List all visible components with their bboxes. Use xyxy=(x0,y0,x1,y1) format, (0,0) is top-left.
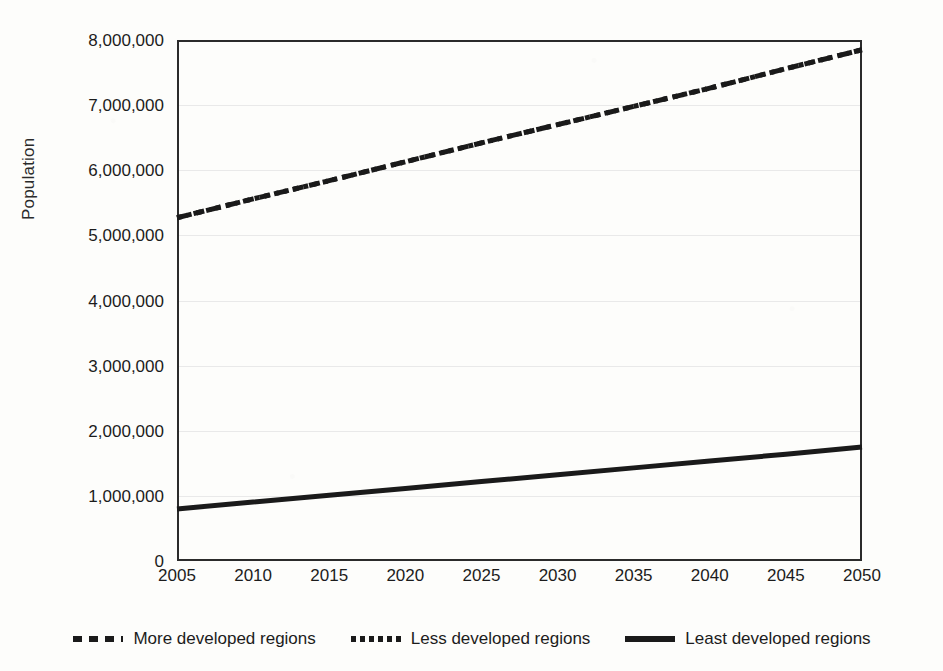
chart-legend: More developed regionsLess developed reg… xyxy=(0,623,943,655)
x-axis-tick-label: 2015 xyxy=(310,566,348,586)
x-axis-tick-label: 2025 xyxy=(463,566,501,586)
legend-item[interactable]: More developed regions xyxy=(72,629,315,649)
population-projection-line-chart: Population 01,000,0002,000,0003,000,0004… xyxy=(0,0,943,671)
y-axis-tick-label: 7,000,000 xyxy=(0,97,172,114)
x-axis-tick-label: 2045 xyxy=(767,566,805,586)
x-axis-tick-label: 2030 xyxy=(539,566,577,586)
plot-area xyxy=(177,40,862,561)
legend-label: Least developed regions xyxy=(685,629,870,649)
legend-label: More developed regions xyxy=(133,629,315,649)
y-axis-tick-label: 4,000,000 xyxy=(0,292,172,309)
legend-swatch-dotted-icon xyxy=(350,633,402,645)
legend-swatch-dashed-icon xyxy=(72,633,124,645)
y-axis-tick-labels: 01,000,0002,000,0003,000,0004,000,0005,0… xyxy=(0,0,172,600)
legend-swatch-solid-icon xyxy=(624,633,676,645)
x-axis-tick-label: 2010 xyxy=(234,566,272,586)
legend-item[interactable]: Less developed regions xyxy=(350,629,591,649)
y-axis-tick-label: 3,000,000 xyxy=(0,357,172,374)
legend-item[interactable]: Least developed regions xyxy=(624,629,870,649)
x-axis-tick-label: 2050 xyxy=(843,566,881,586)
y-axis-tick-label: 1,000,000 xyxy=(0,487,172,504)
x-axis-tick-label: 2005 xyxy=(158,566,196,586)
x-axis-tick-label: 2035 xyxy=(615,566,653,586)
y-axis-tick-label: 5,000,000 xyxy=(0,227,172,244)
series-lines xyxy=(177,40,862,561)
y-axis-tick-label: 6,000,000 xyxy=(0,162,172,179)
y-axis-tick-label: 2,000,000 xyxy=(0,422,172,439)
legend-label: Less developed regions xyxy=(411,629,591,649)
x-axis-tick-labels: 2005201020152020202520302035204020452050 xyxy=(0,566,943,594)
x-axis-tick-label: 2020 xyxy=(386,566,424,586)
x-axis-tick-label: 2040 xyxy=(691,566,729,586)
y-axis-tick-label: 8,000,000 xyxy=(0,32,172,49)
series-line xyxy=(177,447,862,509)
